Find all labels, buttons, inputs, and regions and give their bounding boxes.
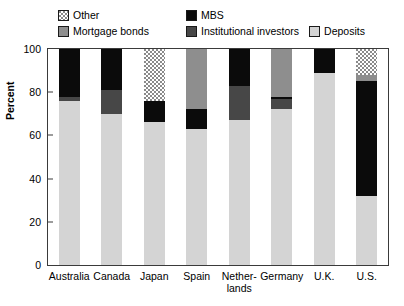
bar-segment-other — [144, 49, 165, 101]
bar-segment-deposits — [59, 101, 80, 265]
bar-segment-institutional — [229, 86, 250, 121]
bar-segment-deposits — [186, 129, 207, 265]
bar-segment-other — [356, 49, 377, 75]
bar-segment-mbs — [144, 101, 165, 123]
bar-segment-mbs — [314, 49, 335, 73]
bar-segment-deposits — [229, 120, 250, 265]
y-axis-tick-label: 60 — [29, 129, 48, 141]
bar-segment-mortgage-bonds — [356, 75, 377, 81]
bar-u-k — [314, 49, 335, 265]
x-axis-tick-label: Canada — [93, 270, 130, 282]
plot-wrapper: Percent 020406080100AustraliaCanadaJapan… — [0, 0, 404, 306]
y-axis-tick-label: 0 — [35, 259, 48, 271]
bar-segment-institutional — [271, 99, 292, 110]
bar-segment-mbs — [229, 49, 250, 86]
bar-segment-mortgage-bonds — [271, 49, 292, 97]
x-axis-tick-label: Germany — [260, 270, 303, 282]
y-axis-tick-mark — [48, 221, 53, 222]
bar-segment-deposits — [101, 114, 122, 265]
bar-u-s — [356, 49, 377, 265]
bar-germany — [271, 49, 292, 265]
x-axis-tick-label: Australia — [49, 270, 90, 282]
plot-area: 020406080100AustraliaCanadaJapanSpainNet… — [47, 48, 389, 266]
y-axis-label: Percent — [4, 81, 16, 120]
bar-segment-institutional — [59, 97, 80, 101]
x-axis-tick-label: U.S. — [357, 270, 377, 282]
y-axis-tick-mark — [48, 135, 53, 136]
bar-segment-mbs — [356, 81, 377, 195]
bar-segment-mbs — [186, 109, 207, 128]
bar-segment-mbs — [101, 49, 122, 90]
bar-australia — [59, 49, 80, 265]
y-axis-tick-label: 100 — [23, 43, 48, 55]
bar-segment-deposits — [144, 122, 165, 265]
bar-japan — [144, 49, 165, 265]
bar-segment-mbs — [271, 97, 292, 99]
stacked-bar-chart: Other MBS Mortgage bonds Institutional i… — [0, 0, 404, 306]
y-axis-tick-label: 80 — [29, 86, 48, 98]
bar-segment-mortgage-bonds — [186, 49, 207, 109]
y-axis-tick-label: 40 — [29, 173, 48, 185]
bar-canada — [101, 49, 122, 265]
x-axis-tick-label: U.K. — [314, 270, 334, 282]
bar-segment-deposits — [314, 73, 335, 265]
bar-segment-deposits — [356, 196, 377, 265]
x-axis-tick-label: Spain — [183, 270, 210, 282]
y-axis-tick-label: 20 — [29, 216, 48, 228]
bar-segment-institutional — [101, 90, 122, 114]
bar-spain — [186, 49, 207, 265]
y-axis-tick-mark — [48, 178, 53, 179]
x-axis-tick-label: Nether- lands — [222, 270, 257, 294]
x-axis-tick-label: Japan — [140, 270, 169, 282]
y-axis-tick-mark — [48, 92, 53, 93]
bar-nether-lands — [229, 49, 250, 265]
bar-segment-deposits — [271, 109, 292, 265]
bar-segment-mbs — [59, 49, 80, 97]
